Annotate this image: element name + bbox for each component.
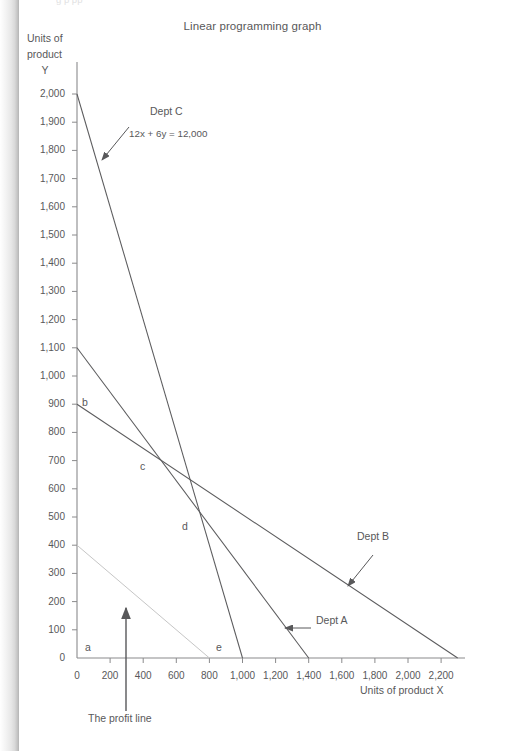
constraint-lines bbox=[77, 94, 458, 658]
constraint-line-dept-a bbox=[77, 348, 309, 658]
constraint-line-dept-b bbox=[77, 404, 458, 658]
profit-line-label: The profit line bbox=[88, 712, 152, 724]
x-axis-tick-marks bbox=[110, 658, 441, 663]
constraint-line-dept-c bbox=[77, 94, 243, 658]
linear-programming-plot bbox=[0, 0, 505, 751]
vertex-label-e: e bbox=[216, 641, 222, 653]
y-axis-tick-marks bbox=[72, 94, 77, 630]
vertex-label-b: b bbox=[82, 396, 88, 408]
vertex-label-d: d bbox=[182, 520, 188, 532]
vertex-label-a: a bbox=[85, 641, 91, 653]
axis-lines bbox=[77, 62, 465, 658]
dept-c-arrow bbox=[102, 127, 129, 160]
dept-c-label: Dept C bbox=[150, 105, 183, 117]
dept-b-label: Dept B bbox=[357, 530, 389, 542]
dept-c-equation-label: 12x + 6y = 12,000 bbox=[129, 128, 207, 139]
dept-b-arrow bbox=[348, 555, 373, 586]
vertex-label-c: c bbox=[140, 460, 145, 472]
dept-a-label: Dept A bbox=[316, 614, 348, 626]
constraint-line-the-profit-line bbox=[77, 545, 209, 658]
